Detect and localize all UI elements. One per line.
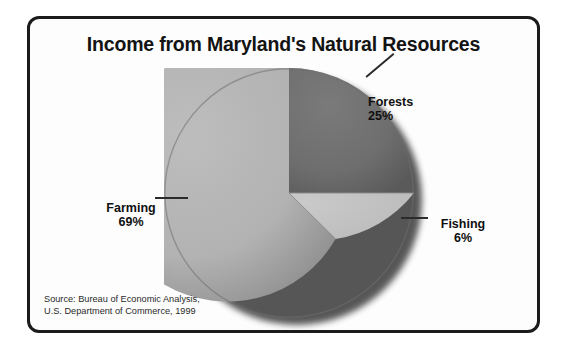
slice-label-fishing-name: Fishing: [441, 217, 485, 231]
chart-title: Income from Maryland's Natural Resources: [30, 33, 537, 56]
slice-label-fishing: Fishing 6%: [426, 217, 500, 245]
chart-page: Income from Maryland's Natural Resources: [0, 0, 567, 347]
leader-line-farming: [155, 197, 188, 199]
slice-label-farming: Farming 69%: [89, 201, 173, 229]
slice-label-farming-percent: 69%: [89, 215, 173, 229]
slice-label-fishing-percent: 6%: [426, 231, 500, 245]
slice-label-forests-percent: 25%: [368, 109, 413, 123]
slice-label-forests: Forests 25%: [368, 95, 413, 123]
chart-frame: Income from Maryland's Natural Resources: [27, 16, 540, 333]
leader-line-fishing: [401, 217, 428, 219]
source-note: Source: Bureau of Economic Analysis, U.S…: [44, 294, 200, 317]
pie-slice-forests[interactable]: [289, 68, 414, 193]
slice-label-forests-name: Forests: [368, 95, 413, 109]
slice-label-farming-name: Farming: [106, 201, 155, 215]
